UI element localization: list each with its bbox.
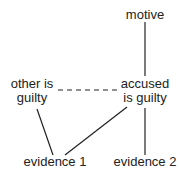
- edge-other-evidence1: [37, 109, 53, 155]
- node-motive-label: motive: [126, 7, 164, 22]
- node-evidence2-label: evidence 2: [114, 154, 177, 169]
- edge-accused-evidence1: [65, 107, 127, 155]
- node-motive: motive: [120, 8, 170, 22]
- node-accused-line2: is guilty: [115, 91, 175, 105]
- node-evidence-1: evidence 1: [22, 155, 88, 169]
- node-accused-line1: accused: [115, 77, 175, 91]
- node-evidence1-label: evidence 1: [24, 154, 87, 169]
- node-other-is-guilty: other is guilty: [2, 77, 62, 105]
- node-evidence-2: evidence 2: [112, 155, 178, 169]
- node-accused-is-guilty: accused is guilty: [115, 77, 175, 105]
- node-other-line2: guilty: [2, 91, 62, 105]
- node-other-line1: other is: [2, 77, 62, 91]
